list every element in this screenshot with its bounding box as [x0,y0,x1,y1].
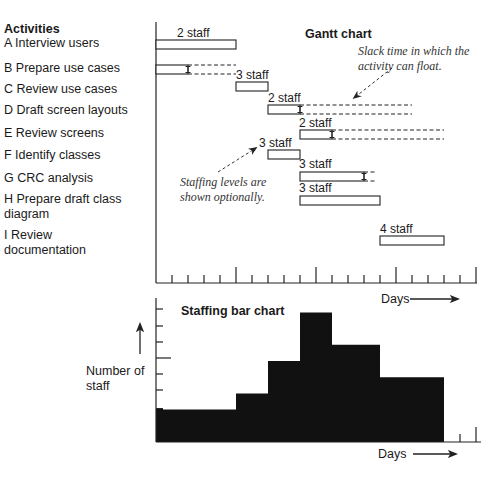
annotation-text: shown optionally. [180,190,265,204]
activity-bar-a [156,40,236,49]
annotation-text: activity can float. [358,59,442,73]
activity-bar-d [268,105,300,114]
activity-label-i: I Review [4,228,53,242]
y-axis-label-line1: Number of [86,364,145,378]
gantt-chart: Activities Gantt chart A Interview users… [4,22,477,306]
staffing-x-axis-label: Days [378,447,406,461]
activity-labels: A Interview usersB Prepare use casesC Re… [4,36,128,257]
staffing-steps [156,312,444,442]
staff-label-e: 2 staff [299,116,332,130]
staff-label-h: 3 staff [299,181,332,195]
activity-label-h: diagram [4,207,49,221]
staff-label-d: 2 staff [268,91,301,105]
activity-bar-g [300,172,364,181]
annotation-text: Staffing levels are [180,175,267,189]
staffing-chart-title: Staffing bar chart [181,304,285,318]
staff-label-f: 3 staff [259,136,292,150]
activity-label-b: B Prepare use cases [4,61,120,75]
activity-label-g: G CRC analysis [4,171,93,185]
gantt-x-axis-label: Days [381,292,409,306]
activity-bar-b [156,65,188,74]
activities-header: Activities [4,22,60,36]
activity-label-f: F Identify classes [4,148,101,162]
staff-label-a: 2 staff [177,26,210,40]
activity-label-h: H Prepare draft class [4,192,121,206]
activity-label-a: A Interview users [4,36,99,50]
staff-label-b: 3 staff [236,68,269,82]
activity-bar-i [380,236,444,245]
activity-bar-c [236,82,268,91]
activity-label-i: documentation [4,243,86,257]
activity-bar-f [268,150,300,159]
activity-label-c: C Review use cases [4,82,117,96]
activity-bar-e [300,130,332,139]
staffing-bar-chart: Staffing bar chart Number of staff Days [86,298,481,461]
y-axis-label-line2: staff [86,379,110,393]
annotation-text: Slack time in which the [358,44,470,58]
gantt-chart-title: Gantt chart [305,27,373,41]
staffing-area-edge [156,408,163,410]
activity-bar-h [300,196,380,205]
staff-label-g: 3 staff [299,157,332,171]
gantt-and-staffing-figure: Activities Gantt chart A Interview users… [0,0,501,483]
activity-label-e: E Review screens [4,126,104,140]
annotation-arrow-icon [218,148,256,172]
staff-label-i: 4 staff [380,222,413,236]
activity-label-d: D Draft screen layouts [4,103,128,117]
staffing-area [156,312,444,442]
